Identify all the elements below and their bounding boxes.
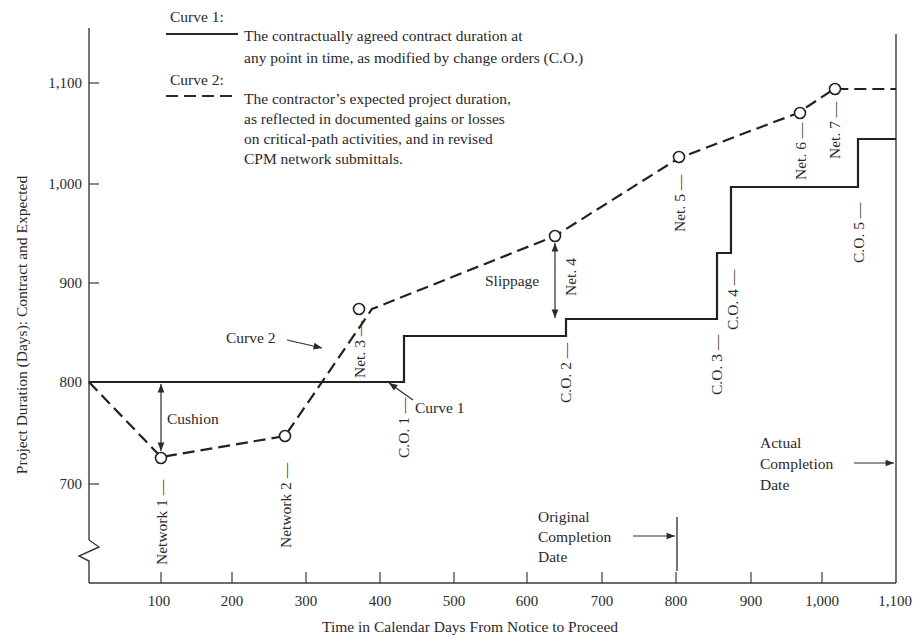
x-tick-label: 300	[295, 593, 318, 609]
y-tick-label: 800	[60, 374, 83, 390]
network-5-label: Net. 5 —	[671, 174, 688, 232]
legend-curve2-desc: The contractor’s expected project durati…	[244, 90, 511, 107]
actual-completion-label: Actual	[760, 434, 801, 451]
x-tick-label: 400	[369, 593, 392, 609]
x-tick-label: 1,000	[805, 593, 839, 609]
network-3-marker	[354, 304, 365, 315]
x-tick-label: 200	[221, 593, 244, 609]
x-ticks	[161, 572, 822, 583]
legend-curve1-desc: any point in time, as modified by change…	[244, 49, 583, 67]
original-completion-label: Date	[538, 548, 567, 565]
network-7-marker	[830, 84, 841, 95]
cushion-label: Cushion	[167, 410, 219, 427]
x-tick-label: 500	[443, 593, 466, 609]
x-tick-label: 100	[148, 593, 171, 609]
x-tick-label: 600	[516, 593, 539, 609]
y-tick-labels: 1,100 1,000 900 800 700	[48, 75, 82, 492]
axis-break-icon	[79, 540, 99, 583]
co-5-label: C.O. 5 —	[850, 202, 867, 263]
project-duration-chart: 1,100 1,000 900 800 700 100 200 300 400 …	[0, 0, 923, 644]
network-2-label: Network 2 —	[277, 462, 294, 548]
x-tick-label: 800	[665, 593, 688, 609]
curve-2-pointer-arrow	[287, 340, 322, 348]
original-completion-label: Completion	[538, 528, 611, 545]
network-6-marker	[795, 108, 806, 119]
curve-1-pointer-arrow	[389, 383, 413, 400]
network-5-marker	[674, 152, 685, 163]
co-3-label: C.O. 3 —	[708, 334, 725, 395]
y-tick-label: 1,100	[48, 75, 82, 91]
legend-curve1-desc: The contractually agreed contract durati…	[244, 27, 523, 44]
network-1-label: Network 1 —	[153, 479, 170, 565]
curve-2-pointer-label: Curve 2	[226, 329, 276, 346]
legend-curve2-desc: as reflected in documented gains or loss…	[244, 110, 505, 127]
network-7-label: Net. 7 —	[826, 101, 843, 159]
slippage-label: Slippage	[485, 272, 539, 289]
network-4-marker	[550, 231, 561, 242]
network-4-label: Net. 4	[562, 258, 579, 296]
y-axis-title: Project Duration (Days): Contract and Ex…	[13, 176, 31, 475]
y-tick-label: 700	[60, 476, 83, 492]
legend-curve1-title: Curve 1:	[170, 8, 224, 25]
legend-curve2-desc: CPM network submittals.	[244, 150, 403, 167]
co-4-label: C.O. 4 —	[724, 269, 741, 330]
co-2-label: C.O. 2 —	[557, 342, 574, 403]
x-tick-label: 900	[740, 593, 763, 609]
legend: Curve 1: The contractually agreed contra…	[166, 8, 583, 167]
x-tick-label: 1,100	[878, 593, 912, 609]
network-2-marker	[280, 431, 291, 442]
network-6-label: Net. 6 —	[792, 122, 809, 180]
network-1-marker	[156, 453, 167, 464]
co-1-label: C.O. 1 —	[395, 397, 412, 458]
legend-curve2-desc: on critical-path activities, and in revi…	[244, 130, 493, 147]
x-tick-label: 700	[591, 593, 614, 609]
y-tick-label: 900	[60, 275, 83, 291]
curve-1-pointer-label: Curve 1	[415, 399, 465, 416]
actual-completion-label: Date	[760, 476, 789, 493]
legend-curve2-title: Curve 2:	[170, 71, 224, 88]
actual-completion-annotation: Actual Completion Date	[760, 434, 894, 493]
x-tick-labels: 100 200 300 400 500 600 700 800 900 1,00…	[148, 593, 912, 609]
network-3-label: Net. 3 —	[351, 320, 368, 378]
x-axis-title: Time in Calendar Days From Notice to Pro…	[322, 618, 618, 635]
y-tick-label: 1,000	[48, 176, 82, 192]
original-completion-annotation: Original Completion Date	[538, 508, 677, 571]
actual-completion-label: Completion	[760, 455, 833, 472]
y-ticks	[89, 83, 99, 484]
original-completion-label: Original	[538, 508, 590, 525]
change-order-labels: C.O. 1 — C.O. 2 — C.O. 3 — C.O. 4 — C.O.…	[395, 202, 867, 458]
